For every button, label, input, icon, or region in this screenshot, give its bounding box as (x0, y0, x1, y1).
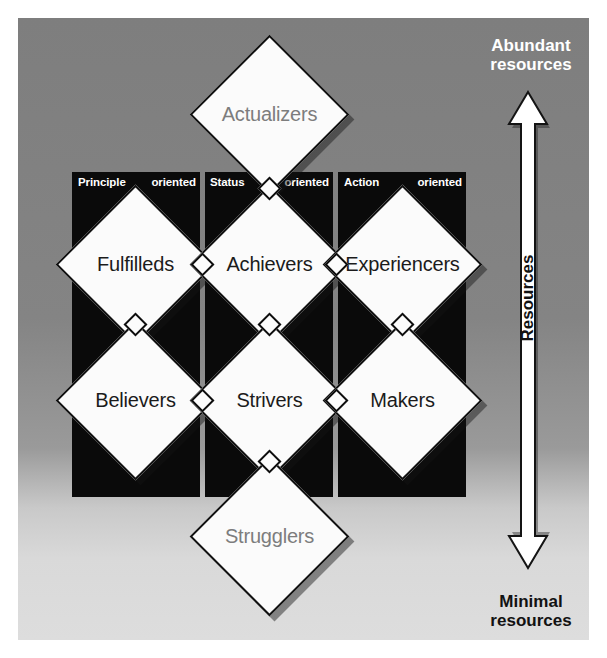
segment-strugglers[interactable]: Strugglers (213, 480, 326, 593)
axis-label-minimal-line1: Minimal (466, 592, 596, 611)
segment-label: Achievers (226, 253, 312, 276)
segment-label: Fulfilleds (97, 253, 174, 276)
axis-label-minimal: Minimal resources (466, 592, 596, 630)
axis-label-minimal-line2: resources (466, 611, 596, 630)
segment-fulfilleds[interactable]: Fulfilleds (79, 208, 192, 321)
column-header-action-lead: Action (344, 176, 379, 188)
axis-label-resources: Resources (518, 242, 538, 354)
segment-believers[interactable]: Believers (79, 344, 192, 457)
segment-actualizers[interactable]: Actualizers (213, 58, 326, 171)
axis-label-abundant-line1: Abundant (466, 36, 596, 55)
segment-label: Strivers (236, 389, 302, 412)
segment-makers[interactable]: Makers (346, 344, 459, 457)
column-header-action-tail: oriented (417, 176, 462, 188)
segment-label: Strugglers (225, 525, 314, 548)
axis-label-abundant: Abundant resources (466, 36, 596, 74)
column-header-principle-tail: oriented (151, 176, 196, 188)
segment-experiencers[interactable]: Experiencers (346, 208, 459, 321)
segment-label: Actualizers (222, 103, 318, 126)
column-header-principle-lead: Principle (78, 176, 126, 188)
segment-label: Believers (95, 389, 175, 412)
segment-achievers[interactable]: Achievers (213, 208, 326, 321)
segment-strivers[interactable]: Strivers (213, 344, 326, 457)
axis-label-abundant-line2: resources (466, 55, 596, 74)
segment-label: Makers (370, 389, 434, 412)
vals-framework-diagram: Principle oriented Status oriented Actio… (0, 0, 607, 658)
column-header-status-lead: Status (210, 176, 245, 188)
segment-label: Experiencers (345, 253, 459, 276)
